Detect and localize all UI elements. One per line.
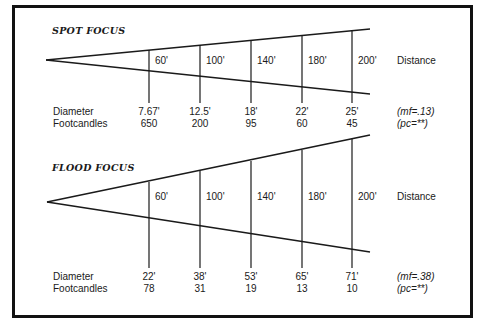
beam-spread-diagram: SPOT FOCUS 60' 100' 140' 180' 200' Dista… bbox=[0, 0, 482, 320]
flood-focus-section: FLOOD FOCUS 60' 100' 140' 180' 200' Dist… bbox=[47, 135, 436, 294]
flood-distance-label: Distance bbox=[397, 191, 436, 202]
flood-footcandles-200: 10 bbox=[346, 283, 358, 294]
spot-distance-100: 100' bbox=[206, 55, 225, 66]
spot-diameter-140: 18' bbox=[244, 106, 257, 117]
flood-diameter-200: 71' bbox=[345, 271, 358, 282]
flood-distance-200: 200' bbox=[358, 191, 377, 202]
flood-footcandles-180: 13 bbox=[296, 283, 308, 294]
flood-distance-60: 60' bbox=[155, 191, 168, 202]
spot-footcandles-60: 650 bbox=[141, 118, 158, 129]
spot-focus-title: SPOT FOCUS bbox=[52, 25, 125, 36]
flood-beam-lower-edge bbox=[47, 202, 370, 252]
flood-diameter-label: Diameter bbox=[53, 271, 94, 282]
flood-distance-100: 100' bbox=[206, 191, 225, 202]
flood-distance-140: 140' bbox=[257, 191, 276, 202]
flood-distance-180: 180' bbox=[308, 191, 327, 202]
spot-diameter-label: Diameter bbox=[53, 106, 94, 117]
spot-diameter-60: 7.67' bbox=[138, 106, 159, 117]
flood-diameter-140: 53' bbox=[244, 271, 257, 282]
spot-distance-180: 180' bbox=[308, 55, 327, 66]
spot-footcandles-140: 95 bbox=[245, 118, 257, 129]
spot-footcandles-100: 200 bbox=[192, 118, 209, 129]
spot-distance-140: 140' bbox=[257, 55, 276, 66]
flood-footcandles-60: 78 bbox=[143, 283, 155, 294]
spot-focus-section: SPOT FOCUS 60' 100' 140' 180' 200' Dista… bbox=[46, 25, 436, 129]
spot-distance-label: Distance bbox=[397, 55, 436, 66]
spot-distance-60: 60' bbox=[155, 55, 168, 66]
spot-distance-200: 200' bbox=[358, 55, 377, 66]
flood-pc-note: (pc=**) bbox=[397, 283, 428, 294]
spot-footcandles-200: 45 bbox=[346, 118, 358, 129]
spot-diameter-180: 22' bbox=[295, 106, 308, 117]
spot-diameter-200: 25' bbox=[345, 106, 358, 117]
flood-footcandles-label: Footcandles bbox=[53, 283, 107, 294]
flood-mf-note: (mf=.38) bbox=[397, 271, 435, 282]
flood-diameter-60: 22' bbox=[142, 271, 155, 282]
spot-diameter-100: 12.5' bbox=[189, 106, 210, 117]
flood-footcandles-140: 19 bbox=[245, 283, 257, 294]
flood-focus-title: FLOOD FOCUS bbox=[51, 162, 135, 173]
flood-diameter-100: 38' bbox=[193, 271, 206, 282]
flood-footcandles-100: 31 bbox=[194, 283, 206, 294]
spot-footcandles-label: Footcandles bbox=[53, 118, 107, 129]
spot-mf-note: (mf=.13) bbox=[397, 106, 435, 117]
spot-pc-note: (pc=**) bbox=[397, 118, 428, 129]
spot-footcandles-180: 60 bbox=[296, 118, 308, 129]
flood-diameter-180: 65' bbox=[295, 271, 308, 282]
